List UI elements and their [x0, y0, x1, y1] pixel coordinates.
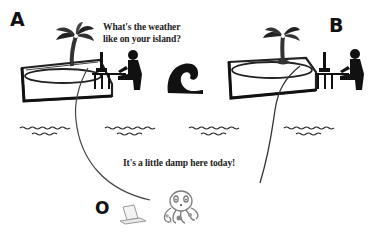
panel-label-a: A	[10, 10, 25, 29]
node-label-o: O	[95, 200, 109, 217]
laptop-icon	[120, 205, 146, 224]
person-at-computer-b	[315, 49, 364, 90]
diagram-canvas: A B O What's the weather like on your is…	[0, 0, 383, 236]
speech-answer: It's a little damp here today!	[123, 157, 235, 169]
octopus-icon	[164, 191, 197, 223]
palm-tree-icon	[56, 22, 94, 66]
speech-question-line-2: like on your island?	[103, 33, 181, 45]
water-ripples	[20, 127, 334, 135]
diagram-illustration	[0, 0, 383, 236]
island-platform-a	[22, 60, 112, 101]
speech-question: What's the weather like on your island?	[103, 21, 181, 45]
ocean-wave-icon	[168, 64, 203, 94]
island-platform-b	[229, 58, 316, 98]
panel-label-b: B	[329, 16, 343, 35]
speech-question-line-1: What's the weather	[103, 21, 181, 33]
